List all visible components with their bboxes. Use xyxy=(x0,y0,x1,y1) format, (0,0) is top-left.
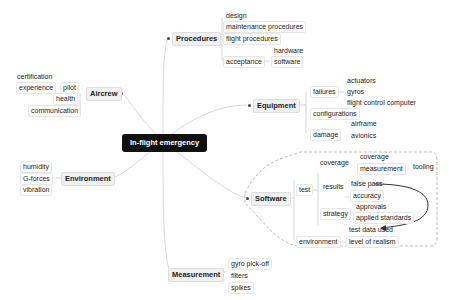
node-aircrew[interactable]: Aircrew xyxy=(86,87,122,101)
branch-dot xyxy=(167,37,170,40)
node-results[interactable]: results xyxy=(320,181,347,193)
node-damage[interactable]: damage xyxy=(310,129,341,141)
node-experience[interactable]: experience xyxy=(16,82,56,94)
node-software-acceptance[interactable]: software xyxy=(271,56,303,68)
node-level-of-realism[interactable]: level of realism xyxy=(346,236,399,248)
node-avionics[interactable]: avionics xyxy=(348,130,379,142)
node-environment-software[interactable]: environment xyxy=(296,236,341,248)
root-node[interactable]: In-flight emergency xyxy=(122,134,207,152)
node-coverage[interactable]: coverage xyxy=(317,157,352,169)
node-gyro-pick-off[interactable]: gyro pick-off xyxy=(228,258,272,270)
node-maintenance-procedures[interactable]: maintenance procedures xyxy=(223,21,306,33)
node-tooling[interactable]: tooling xyxy=(410,161,437,173)
branch-dot xyxy=(246,197,249,200)
node-strategy[interactable]: strategy xyxy=(320,208,351,220)
node-humidity[interactable]: humidity xyxy=(20,161,52,173)
node-measurement[interactable]: Measurement xyxy=(168,268,224,282)
node-communication[interactable]: communication xyxy=(28,105,81,117)
node-test[interactable]: test xyxy=(296,184,313,196)
node-applied-standards[interactable]: applied standards xyxy=(353,212,414,224)
node-acceptance[interactable]: acceptance xyxy=(223,56,265,68)
node-flight-procedures[interactable]: flight procedures xyxy=(223,33,281,45)
node-filters[interactable]: filters xyxy=(228,270,251,282)
node-environment[interactable]: Environment xyxy=(61,172,115,186)
node-vibration[interactable]: vibration xyxy=(20,184,52,196)
node-health[interactable]: health xyxy=(53,93,78,105)
node-software[interactable]: Software xyxy=(251,192,291,206)
node-false-pass[interactable]: false pass xyxy=(348,178,386,190)
branch-dot xyxy=(248,104,251,107)
node-measurement-sub[interactable]: measurement xyxy=(357,163,406,175)
node-airframe[interactable]: airframe xyxy=(348,118,380,130)
node-equipment[interactable]: Equipment xyxy=(253,99,300,113)
node-coverage-sub[interactable]: coverage xyxy=(357,151,392,163)
node-test-data-used[interactable]: test data used xyxy=(346,224,396,236)
node-spikes[interactable]: spikes xyxy=(228,282,254,294)
node-procedures[interactable]: Procedures xyxy=(172,32,221,46)
connector-lines xyxy=(0,0,449,300)
node-failures[interactable]: failures xyxy=(310,86,339,98)
